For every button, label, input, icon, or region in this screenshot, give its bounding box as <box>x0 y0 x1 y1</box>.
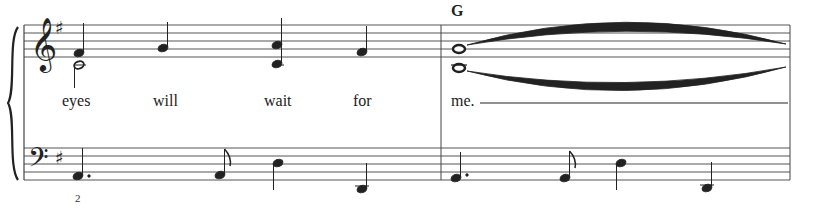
lyric-word: wait <box>264 92 292 110</box>
fingering-number: 2 <box>75 192 81 204</box>
treble-notes-m2 <box>451 22 788 103</box>
lyric-word: will <box>153 92 178 110</box>
sharp-icon: ♯ <box>55 17 64 38</box>
tie-upper <box>467 22 786 45</box>
bass-staff <box>24 148 790 180</box>
bass-notes-m1 <box>72 148 369 194</box>
chord-symbol: G <box>451 2 463 20</box>
treble-notes-m1 <box>73 18 368 88</box>
sharp-icon: ♯ <box>55 147 64 168</box>
lyric-word: for <box>353 92 372 110</box>
music-score: 𝄞 ♯ 𝄢 ♯ <box>0 0 813 210</box>
lyric-word: eyes <box>62 92 90 110</box>
bass-clef-icon: 𝄢 <box>28 142 49 180</box>
lyric-word: me. <box>451 92 475 110</box>
treble-clef-icon: 𝄞 <box>30 17 57 73</box>
tie-lower <box>467 67 786 91</box>
grand-staff-brace-icon <box>8 27 18 180</box>
